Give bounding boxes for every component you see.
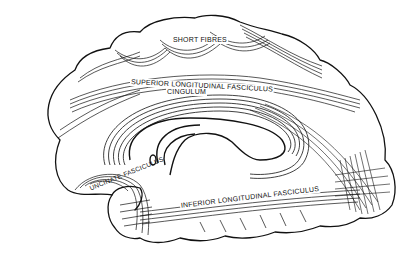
label-cingulum: CINGULUM <box>166 88 207 96</box>
label-short-fibres: SHORT FIBRES <box>172 36 228 44</box>
hemisphere-outline <box>48 15 395 242</box>
brain-fibres-diagram: SHORT FIBRES SUPERIOR LONGITUDINAL FASCI… <box>0 0 414 263</box>
short-fibres-tract <box>78 25 322 82</box>
